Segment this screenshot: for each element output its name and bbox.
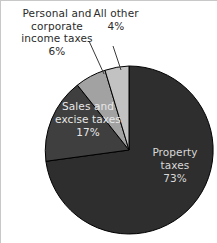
pie-chart-canvas xyxy=(1,1,217,243)
leader-line-all-other xyxy=(113,46,121,70)
pie-chart-figure: Personal and corporate income taxes 6% A… xyxy=(0,0,217,243)
leader-line-personal-and-corporate-income-taxes xyxy=(89,41,104,74)
